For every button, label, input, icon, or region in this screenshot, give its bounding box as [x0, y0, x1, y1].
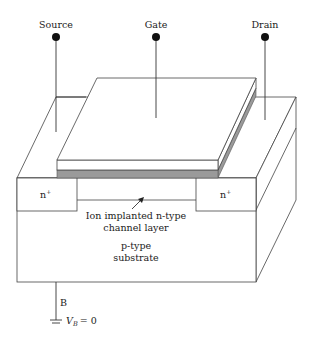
body-terminal-label: B — [60, 297, 67, 308]
source-terminal-dot — [52, 33, 60, 41]
drain-terminal-dot — [261, 33, 269, 41]
ground-icon — [50, 320, 62, 323]
substrate-label-line2: substrate — [113, 252, 159, 263]
gate-label: Gate — [145, 19, 168, 30]
body-voltage-label: VB= 0 — [66, 315, 97, 328]
source-label: Source — [39, 19, 73, 30]
mosfet-diagram: Source Gate Drain n+ n+ Ion implanted n-… — [0, 0, 312, 346]
channel-label-line2: channel layer — [103, 222, 169, 233]
gate-terminal-dot — [152, 33, 160, 41]
gate-metal-front — [57, 160, 218, 170]
substrate-label-line1: p-type — [121, 240, 152, 251]
gate-oxide-front — [57, 170, 218, 178]
channel-label-line1: Ion implanted n-type — [86, 210, 187, 221]
drain-label: Drain — [252, 19, 279, 30]
